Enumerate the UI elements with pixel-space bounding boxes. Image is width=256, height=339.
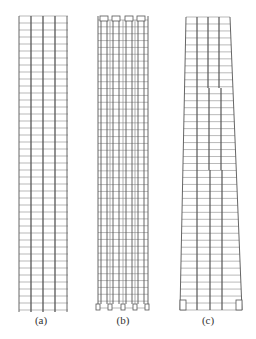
structural-frames-figure [0, 0, 256, 339]
frame-diagram-a [19, 16, 68, 312]
frame-diagram-c [180, 17, 242, 310]
panel-label-c: (c) [193, 314, 223, 326]
frame-diagram-b [96, 16, 149, 310]
panel-label-b: (b) [108, 314, 138, 326]
panel-label-a: (a) [26, 314, 56, 326]
